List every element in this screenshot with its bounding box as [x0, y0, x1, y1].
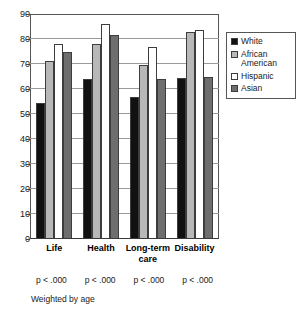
bar [130, 97, 139, 238]
bar-groups [31, 15, 218, 238]
bar [195, 30, 204, 238]
legend-item: African American [231, 50, 292, 69]
legend-label: African American [241, 50, 292, 69]
legend-swatch-icon [231, 38, 238, 45]
bar [148, 47, 157, 238]
bar [101, 24, 110, 238]
category-label: Disability [171, 243, 218, 264]
y-axis-tick-mark [26, 239, 30, 240]
bar-group [125, 15, 172, 238]
plot-area [30, 14, 219, 239]
bar-group [171, 15, 218, 238]
bar [110, 35, 119, 238]
bar [92, 44, 101, 239]
legend-label: White [241, 37, 263, 47]
category-label: Long-termcare [125, 243, 172, 264]
bar [177, 78, 186, 238]
y-axis: 0102030405060708090 [0, 0, 30, 239]
bar [157, 79, 166, 238]
chart-footnote: Weighted by age [31, 294, 95, 304]
bar [54, 44, 63, 239]
p-value-label: p < .000 [173, 275, 222, 285]
p-value-label: p < .000 [27, 275, 76, 285]
category-label: Health [78, 243, 125, 264]
legend-swatch-icon [231, 51, 238, 58]
legend-item: White [231, 37, 292, 47]
bar [186, 32, 195, 238]
legend-swatch-icon [231, 85, 238, 92]
p-value-annotations: p < .000p < .000p < .000p < .000 [27, 275, 222, 285]
legend-item: Hispanic [231, 72, 292, 82]
category-axis-labels: LifeHealthLong-termcareDisability [31, 243, 218, 264]
legend-item: Asian [231, 84, 292, 94]
bar [83, 79, 92, 238]
bar [204, 77, 213, 238]
chart-legend: WhiteAfrican AmericanHispanicAsian [226, 32, 296, 99]
p-value-label: p < .000 [125, 275, 174, 285]
legend-swatch-icon [231, 73, 238, 80]
bar-group [31, 15, 78, 238]
legend-label: Hispanic [241, 72, 274, 82]
bar [139, 65, 148, 238]
bar [63, 52, 72, 238]
category-label: Life [31, 243, 78, 264]
legend-label: Asian [241, 84, 262, 94]
bar-chart: 0102030405060708090 LifeHealthLong-termc… [0, 0, 305, 315]
bar [36, 103, 45, 238]
bar [45, 61, 54, 238]
bar-group [78, 15, 125, 238]
p-value-label: p < .000 [76, 275, 125, 285]
